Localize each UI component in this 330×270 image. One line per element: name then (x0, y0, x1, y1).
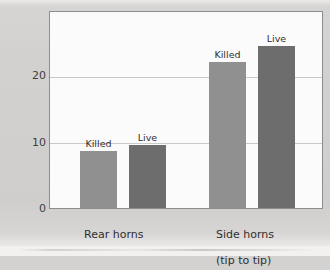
bar-label-rear-horns-live: Live (119, 132, 176, 143)
bar-rear-horns-killed (80, 151, 117, 208)
x-group-label-side-horns-line2: (tip to tip) (216, 254, 274, 267)
bar-rear-horns-live (129, 145, 166, 208)
y-tick-label-20: 20 (4, 69, 46, 82)
bar-side-horns-live (258, 46, 295, 208)
x-group-label-side-horns: Side horns (tip to tip) (216, 215, 274, 270)
y-tick-label-0: 0 (4, 202, 46, 215)
x-group-label-rear-horns-line1: Rear horns (84, 228, 143, 241)
x-group-label-rear-horns: Rear horns (84, 215, 143, 254)
bar-label-side-horns-live: Live (248, 33, 305, 44)
scan-artifact-strip (0, 246, 330, 256)
plot-frame: Killed Live Killed Live (49, 11, 323, 209)
plot-area: Killed Live Killed Live (50, 12, 322, 208)
bar-label-side-horns-killed: Killed (199, 49, 256, 60)
bar-side-horns-killed (209, 62, 246, 208)
y-tick-label-10: 10 (4, 136, 46, 149)
x-group-label-side-horns-line1: Side horns (216, 228, 274, 241)
